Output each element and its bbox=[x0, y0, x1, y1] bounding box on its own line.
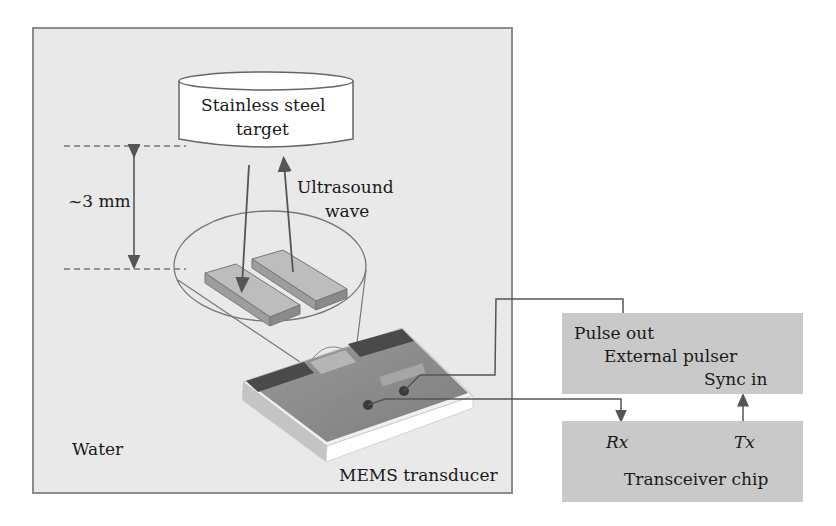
wave-label-line2: wave bbox=[325, 203, 369, 220]
pulse-out-label: Pulse out bbox=[574, 325, 654, 342]
target-label-line1: Stainless steel bbox=[201, 97, 325, 114]
transmit-wave-arrow bbox=[242, 165, 249, 286]
distance-label: ~3 mm bbox=[68, 193, 131, 210]
rx-label: Rx bbox=[606, 434, 628, 451]
tx-label: Tx bbox=[734, 434, 755, 451]
external-pulser-title: External pulser bbox=[604, 348, 737, 365]
target-label-line2: target bbox=[236, 121, 289, 138]
external-pulser-box: Pulse out External pulser Sync in bbox=[562, 313, 803, 394]
mems-transducer-label: MEMS transducer bbox=[339, 467, 498, 484]
transceiver-chip-title: Transceiver chip bbox=[624, 471, 768, 488]
transceiver-chip-box: Rx Tx Transceiver chip bbox=[562, 421, 803, 502]
sync-in-label: Sync in bbox=[704, 371, 768, 388]
mems-chip-graphic bbox=[242, 328, 473, 462]
wave-label-line1: Ultrasound bbox=[297, 179, 394, 196]
water-label: Water bbox=[72, 441, 123, 458]
